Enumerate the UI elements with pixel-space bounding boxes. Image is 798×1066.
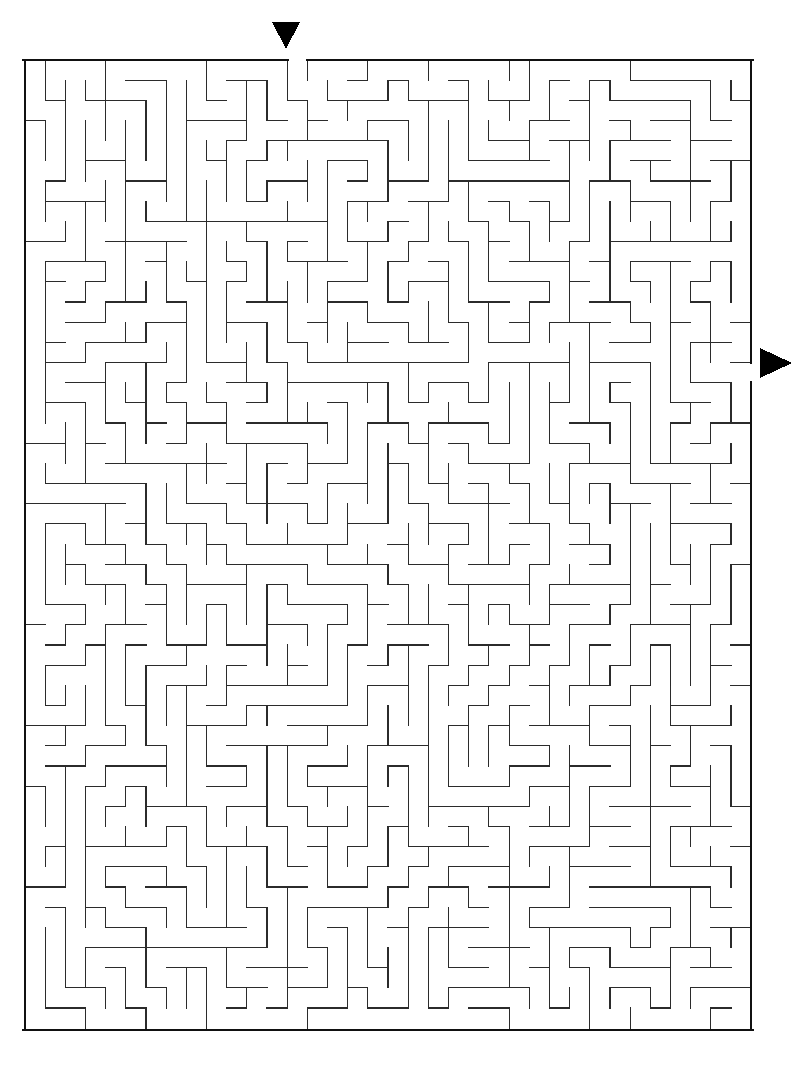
page-background [0, 0, 798, 1066]
maze-page [0, 0, 798, 1066]
maze-canvas [0, 0, 798, 1066]
